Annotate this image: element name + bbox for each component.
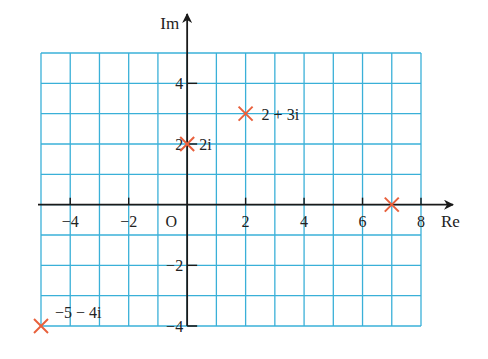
x-tick-label: −4 — [62, 213, 79, 230]
x-tick-label: 2 — [242, 213, 250, 230]
point-label: −5 − 4i — [55, 304, 102, 321]
origin-label: O — [166, 213, 178, 230]
y-tick-label: −2 — [166, 257, 183, 274]
point-label: 2i — [199, 136, 212, 153]
argand-diagram: −4−2246842−2−4OReIm 2 + 3i2i−5 − 4i — [0, 0, 488, 359]
x-tick-label: −2 — [120, 213, 137, 230]
x-tick-label: 8 — [417, 213, 425, 230]
x-tick-label: 6 — [359, 213, 367, 230]
grid — [41, 53, 421, 326]
y-tick-label: −4 — [166, 318, 183, 335]
real-axis-label: Re — [441, 212, 460, 231]
x-tick-label: 4 — [300, 213, 308, 230]
point-label: 2 + 3i — [262, 106, 300, 123]
imaginary-axis-label: Im — [160, 14, 179, 33]
y-tick-label: 4 — [175, 75, 183, 92]
